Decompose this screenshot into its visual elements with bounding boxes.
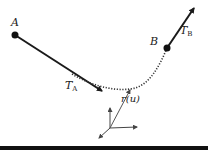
label-position-vector: r(u) bbox=[121, 94, 140, 104]
label-point-a: A bbox=[11, 17, 19, 28]
label-tangent-a: TA bbox=[65, 80, 77, 93]
bottom-border bbox=[0, 146, 208, 150]
point-b bbox=[164, 45, 171, 52]
point-a bbox=[12, 32, 19, 39]
tangent-a-arrow bbox=[15, 35, 102, 91]
label-point-b: B bbox=[150, 36, 158, 47]
dotted-curve bbox=[72, 48, 167, 89]
curve-diagram bbox=[0, 0, 208, 150]
label-tangent-a-sub: A bbox=[72, 85, 77, 93]
label-tangent-b: TB bbox=[180, 25, 193, 38]
label-tangent-b-sub: B bbox=[187, 30, 192, 38]
